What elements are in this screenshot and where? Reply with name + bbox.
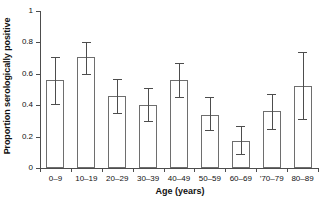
- x-axis-tick: [102, 168, 103, 172]
- x-axis-tick: [133, 168, 134, 172]
- error-bar-cap-lower: [267, 129, 276, 130]
- x-axis-tick-label: 60–69: [225, 174, 256, 184]
- y-axis-tick: 0.6: [36, 74, 40, 75]
- error-bar-cap-upper: [82, 42, 91, 43]
- error-bar-line: [117, 79, 118, 114]
- plot-area: 00.20.40.60.81: [40, 11, 318, 168]
- x-axis-tick: [164, 168, 165, 172]
- error-bar-cap-upper: [175, 63, 184, 64]
- error-bar-cap-upper: [236, 126, 245, 127]
- error-bar-cap-lower: [236, 154, 245, 155]
- y-axis-tick-label: 0.2: [11, 131, 33, 142]
- error-bar-cap-lower: [113, 113, 122, 114]
- error-bar-line: [86, 42, 87, 73]
- y-axis-tick-label: 0: [11, 162, 33, 173]
- error-bar-cap-upper: [113, 79, 122, 80]
- x-axis-tick: [40, 168, 41, 172]
- x-axis-tick: [287, 168, 288, 172]
- x-axis-tick-label: 50–59: [194, 174, 225, 184]
- error-bar-cap-upper: [51, 57, 60, 58]
- error-bar-cap-lower: [51, 104, 60, 105]
- error-bar-line: [148, 88, 149, 121]
- x-axis-title: Age (years): [40, 186, 320, 196]
- error-bar-cap-lower: [205, 130, 214, 131]
- y-axis-tick: 1: [36, 11, 40, 12]
- x-axis-tick-label: 20–29: [102, 174, 133, 184]
- y-axis-title: Proportion serologically positive: [0, 0, 14, 172]
- x-axis-line: [40, 168, 319, 169]
- y-axis-tick-label: 0.8: [11, 36, 33, 47]
- error-bar-line: [55, 57, 56, 104]
- error-bar-cap-lower: [144, 121, 153, 122]
- x-axis-tick-label: 40–49: [164, 174, 195, 184]
- error-bar-cap-lower: [82, 74, 91, 75]
- x-axis-tick: [256, 168, 257, 172]
- error-bar-cap-upper: [267, 94, 276, 95]
- y-axis-tick-label: 1: [11, 5, 33, 16]
- x-axis-tick: [318, 168, 319, 172]
- error-bar-cap-upper: [144, 88, 153, 89]
- y-axis-tick: 0.8: [36, 42, 40, 43]
- y-axis-tick-label: 0.4: [11, 99, 33, 110]
- x-axis-tick-label: ’70–79: [256, 174, 287, 184]
- error-bar-line: [241, 126, 242, 154]
- error-bar-line: [303, 52, 304, 120]
- x-axis-tick: [71, 168, 72, 172]
- x-axis-tick: [194, 168, 195, 172]
- error-bar-cap-upper: [298, 52, 307, 53]
- x-axis-tick: [225, 168, 226, 172]
- error-bar-cap-upper: [205, 97, 214, 98]
- error-bar-line: [272, 94, 273, 129]
- chart-figure: Proportion serologically positive 00.20.…: [0, 0, 323, 204]
- error-bar-line: [210, 97, 211, 130]
- y-axis-tick-label: 0.6: [11, 68, 33, 79]
- y-axis-tick: 0.4: [36, 105, 40, 106]
- x-axis-tick-label: 80–89: [287, 174, 318, 184]
- x-axis-tick-label: 0–9: [40, 174, 71, 184]
- error-bar-cap-lower: [175, 97, 184, 98]
- y-axis-tick: 0.2: [36, 137, 40, 138]
- error-bar-line: [179, 63, 180, 98]
- error-bar-cap-lower: [298, 119, 307, 120]
- x-axis-tick-label: 10–19: [71, 174, 102, 184]
- x-axis-tick-label: 30–39: [133, 174, 164, 184]
